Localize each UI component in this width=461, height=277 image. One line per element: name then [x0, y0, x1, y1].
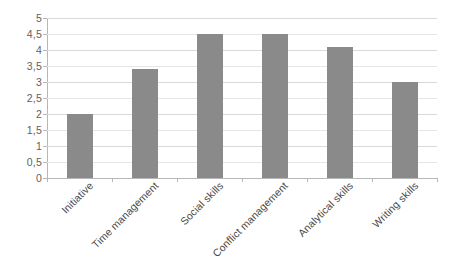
bar	[327, 47, 353, 178]
y-axis-tick-label: 3,5	[0, 61, 42, 72]
y-axis-tick-label: 1	[0, 141, 42, 152]
y-axis-tick-label: 4,5	[0, 29, 42, 40]
bar-chart: 00,511,522,533,544,55 InitiativeTime man…	[0, 0, 461, 277]
bar	[197, 34, 223, 178]
y-axis-tick-label: 5	[0, 13, 42, 24]
y-axis-tick-label: 3	[0, 77, 42, 88]
y-axis-tick-label: 0,5	[0, 157, 42, 168]
y-axis-tick-label: 0	[0, 173, 42, 184]
x-axis-category-label: Social skills	[178, 180, 225, 227]
bar	[392, 82, 418, 178]
y-axis-tick-label: 1,5	[0, 125, 42, 136]
bar	[262, 34, 288, 178]
x-axis-category-label: Analytical skills	[296, 180, 355, 239]
y-axis-tick-label: 4	[0, 45, 42, 56]
x-axis-category-labels: InitiativeTime managementSocial skillsCo…	[47, 180, 437, 277]
x-axis-tick-mark	[437, 178, 438, 182]
y-axis-tick-label: 2,5	[0, 93, 42, 104]
plot-area	[47, 18, 437, 178]
bar	[67, 114, 93, 178]
bar-series	[47, 18, 437, 178]
y-axis-tick-labels: 00,511,522,533,544,55	[0, 18, 42, 178]
x-axis-category-label: Conflict management	[211, 180, 290, 259]
bar	[132, 69, 158, 178]
x-axis-category-label: Writing skills	[370, 180, 420, 230]
y-axis-tick-label: 2	[0, 109, 42, 120]
x-axis-category-label: Initiative	[60, 180, 95, 215]
x-axis-category-label: Time management	[90, 180, 160, 250]
